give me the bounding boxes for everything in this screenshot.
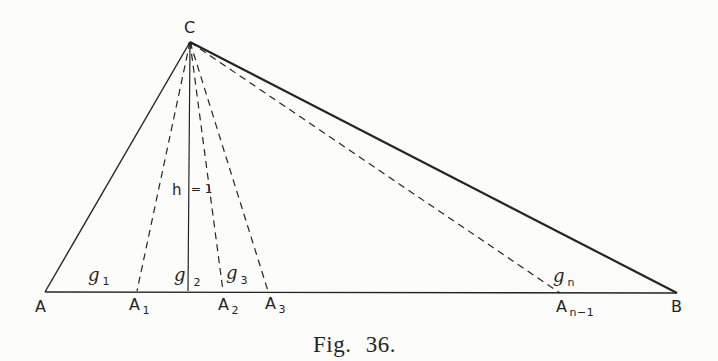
region-label-gn-main: g xyxy=(553,265,565,286)
region-label-g2-sub: 2 xyxy=(194,276,201,289)
base-label-An1-main: A xyxy=(556,297,567,316)
base-label-A3: A3 xyxy=(265,294,286,316)
region-label-g2: g2 xyxy=(174,264,201,289)
base-label-An1: An−1 xyxy=(556,297,594,319)
base-label-A1: A1 xyxy=(129,295,150,317)
cevian-CA2-line xyxy=(190,42,223,291)
apex-point xyxy=(188,42,192,46)
side-CB-line xyxy=(190,42,677,293)
cevian-CAn1-line xyxy=(190,42,560,293)
base-label-B-main: B xyxy=(671,297,682,316)
region-label-gn-sub: n xyxy=(568,276,575,289)
base-label-A2-sub: 2 xyxy=(231,304,239,317)
region-label-g2-main: g xyxy=(174,264,186,285)
base-label-A2-main: A xyxy=(218,295,229,314)
figure-page: C A A1 A2 A3 An−1 B g1 g2 g3 gn h = 1 Fi… xyxy=(0,0,718,361)
base-label-A3-sub: 3 xyxy=(278,303,286,316)
base-label-A3-main: A xyxy=(265,294,276,313)
altitude-line xyxy=(188,42,190,291)
altitude-value-label: = 1 xyxy=(191,182,213,196)
base-label-A-main: A xyxy=(35,297,46,316)
base-label-B: B xyxy=(671,297,682,316)
cevian-CA1-line xyxy=(137,42,190,291)
region-label-g1: g1 xyxy=(88,264,110,288)
base-AB-line xyxy=(45,292,677,293)
base-label-A1-main: A xyxy=(129,295,140,314)
cevian-CA3-line xyxy=(190,42,268,291)
apex-label: C xyxy=(184,18,196,37)
region-label-g1-main: g xyxy=(88,264,100,285)
base-label-A: A xyxy=(35,297,46,316)
base-label-A2: A2 xyxy=(218,295,239,317)
side-CA-line xyxy=(45,42,190,292)
region-label-gn: gn xyxy=(553,265,575,289)
base-label-An1-sub: n−1 xyxy=(569,306,594,319)
region-label-g3: g3 xyxy=(226,262,248,287)
figure-caption: Fig. 36. xyxy=(313,332,396,357)
region-label-g3-sub: 3 xyxy=(241,274,248,287)
region-label-g3-main: g xyxy=(226,262,238,283)
base-label-A1-sub: 1 xyxy=(142,304,150,317)
region-label-g1-sub: 1 xyxy=(103,275,110,288)
altitude-symbol-label: h xyxy=(172,181,182,199)
triangle-diagram-canvas: C A A1 A2 A3 An−1 B g1 g2 g3 gn h = 1 Fi… xyxy=(0,0,718,361)
